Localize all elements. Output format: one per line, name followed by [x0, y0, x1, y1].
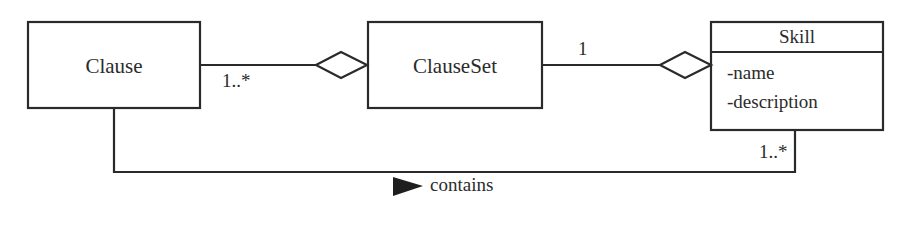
aggregation-diamond-icon	[660, 52, 711, 78]
clauseset-class-name: ClauseSet	[413, 54, 497, 79]
skill-class-name: Skill	[779, 26, 815, 48]
contains-association-label: contains	[430, 174, 493, 196]
clause-multiplicity-label: 1..*	[222, 70, 251, 92]
aggregation-diamond-icon	[316, 52, 367, 78]
skill-multiplicity-label: 1..*	[759, 141, 788, 163]
clause-class-name: Clause	[85, 54, 142, 79]
direction-arrow-icon	[393, 177, 423, 196]
contains-association-line	[114, 108, 795, 172]
skill-attribute-name: -name	[727, 62, 774, 84]
clauseset-multiplicity-label: 1	[578, 38, 588, 60]
skill-attribute-description: -description	[727, 91, 818, 113]
